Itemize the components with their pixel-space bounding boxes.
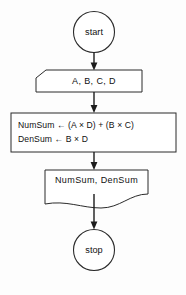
process-line-1: NumSum ← (A × D) + (B × C) <box>18 120 134 130</box>
arrow-head-icon <box>91 105 98 113</box>
arrow-head-icon <box>91 63 98 71</box>
node-output: NumSum, DenSum <box>45 170 148 208</box>
node-process: NumSum ← (A × D) + (B × C) DenSum ← B × … <box>11 113 176 152</box>
arrow-head-icon <box>91 222 98 230</box>
connector-input-to-process <box>91 92 98 113</box>
output-label: NumSum, DenSum <box>55 175 138 185</box>
connector-start-to-input <box>91 53 98 71</box>
input-label: A, B, C, D <box>72 76 116 86</box>
flowchart-diagram: start A, B, C, D NumSum ← (A × D) + (B ×… <box>0 0 186 295</box>
node-start: start <box>74 12 115 53</box>
node-stop: stop <box>74 230 115 271</box>
node-input: A, B, C, D <box>36 70 142 92</box>
connector-process-to-output <box>91 152 98 170</box>
stop-terminal-label: stop <box>85 245 102 255</box>
arrow-head-icon <box>91 162 98 170</box>
start-terminal-label: start <box>85 27 103 37</box>
process-line-2: DenSum ← B × D <box>18 134 88 144</box>
